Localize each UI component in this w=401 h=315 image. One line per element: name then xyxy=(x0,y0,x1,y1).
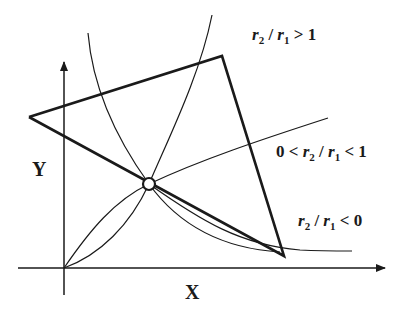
relation: > 1 xyxy=(289,25,316,44)
curve-ratio-gt-1-right xyxy=(64,15,212,268)
curve-ratio-gt-1-left xyxy=(88,33,280,252)
diagram-canvas: Y X r2 / r1 > 1 0 < r2 / r1 < 1 r2 / r1 … xyxy=(0,0,401,315)
x-axis-label: X xyxy=(185,281,200,303)
relation: < 1 xyxy=(340,142,367,161)
prefix: 0 < xyxy=(276,142,303,161)
bold-polygon xyxy=(29,56,284,256)
relation: < 0 xyxy=(335,211,362,230)
slash: / xyxy=(310,211,323,230)
label-ratio-lt-0: r2 / r1 < 0 xyxy=(298,211,362,232)
label-ratio-gt-1: r2 / r1 > 1 xyxy=(252,25,316,46)
slash: / xyxy=(315,142,328,161)
slash: / xyxy=(264,25,277,44)
y-axis-label: Y xyxy=(32,158,47,180)
label-ratio-between-0-1: 0 < r2 / r1 < 1 xyxy=(276,142,367,163)
intersection-point xyxy=(143,178,155,190)
